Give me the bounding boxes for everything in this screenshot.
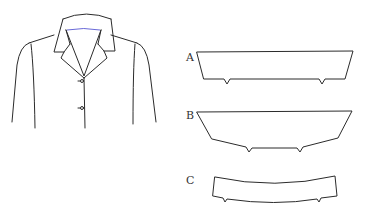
lapel-right — [84, 44, 107, 78]
lapel-left — [61, 44, 84, 78]
button-icon — [81, 107, 84, 110]
diagram-canvas — [0, 0, 365, 216]
jacket-drawing — [12, 14, 156, 128]
shoulder-left — [29, 35, 54, 43]
shoulder-right — [111, 35, 137, 43]
neckline-v — [66, 30, 101, 76]
label-piece-c: C — [186, 175, 194, 186]
label-piece-b: B — [186, 110, 194, 121]
pattern-piece-c — [213, 176, 337, 203]
pattern-piece-b — [197, 111, 352, 152]
collar-right — [104, 19, 115, 51]
sleeve-left-inner — [31, 44, 35, 128]
pattern-piece-a — [197, 51, 353, 84]
label-piece-a: A — [186, 52, 194, 63]
collar-top — [63, 14, 111, 19]
sleeve-right-inner — [133, 44, 135, 124]
sleeve-left-outer — [12, 43, 29, 122]
collar-left — [54, 19, 64, 52]
button-icon — [81, 80, 84, 83]
center-front — [84, 78, 85, 128]
sleeve-right-outer — [137, 43, 156, 122]
back-neck-line — [67, 29, 100, 31]
